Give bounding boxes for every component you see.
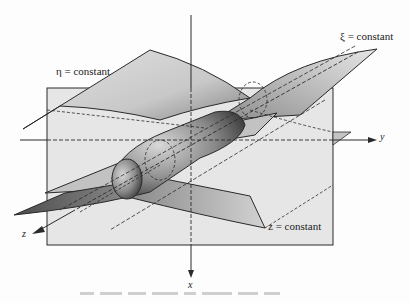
x-axis-arrowhead bbox=[188, 270, 194, 278]
z-axis-arrowhead bbox=[32, 226, 45, 234]
z-constant-label: z = constant bbox=[268, 221, 321, 232]
diagram-graphic bbox=[0, 0, 410, 303]
xi-constant-label: ξ = constant bbox=[340, 31, 393, 42]
x-axis-label: x bbox=[188, 280, 192, 290]
eta-constant-label: η = constant bbox=[56, 66, 110, 77]
z-axis-label: z bbox=[22, 229, 26, 239]
cropped-caption-fragment bbox=[80, 292, 340, 303]
xi-surface-wing bbox=[215, 49, 377, 120]
coordinate-surfaces-diagram: η = constant ξ = constant z = constant x… bbox=[0, 0, 410, 303]
y-axis-label: y bbox=[380, 132, 384, 142]
xi-surface-tip bbox=[333, 132, 351, 145]
y-axis-arrowhead bbox=[368, 137, 377, 143]
